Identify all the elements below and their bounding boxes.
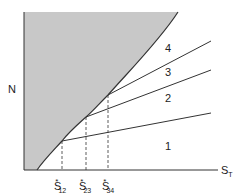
s34-label: S*34	[102, 178, 114, 194]
region-1-label: 1	[165, 141, 171, 152]
region-3-label: 3	[165, 67, 171, 78]
phase-diagram	[0, 0, 242, 196]
s12-sub: 12	[58, 187, 66, 194]
x-axis-label: ST	[221, 165, 233, 178]
s23-label: S*23	[79, 178, 91, 194]
s23-sub: 23	[83, 187, 91, 194]
y-axis-label: N	[8, 84, 16, 95]
s34-sub: 34	[106, 187, 114, 194]
region-4-label: 4	[165, 43, 171, 54]
region-2-label: 2	[165, 93, 171, 104]
s12-label: S*12	[54, 178, 66, 194]
x-axis-label-sub: T	[228, 171, 232, 178]
